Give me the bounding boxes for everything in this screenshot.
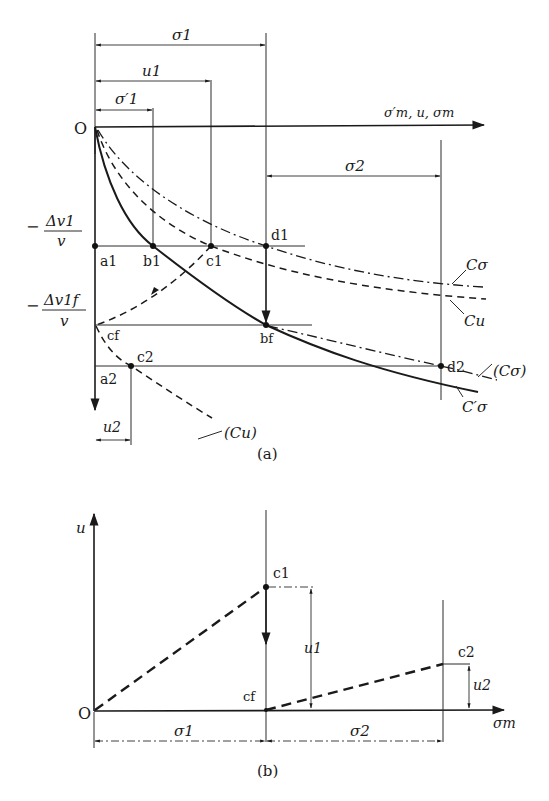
point-c1	[208, 243, 214, 249]
c-u-leader	[450, 300, 464, 314]
c-sigma-paren-leader	[478, 364, 492, 377]
sigma2-label-b: σ2	[350, 722, 370, 740]
dv1-denominator: v	[57, 232, 66, 250]
point-a1	[92, 243, 98, 249]
label-cf-b: cf	[243, 689, 256, 704]
label-bf: bf	[260, 331, 274, 346]
point-c1-b	[263, 584, 269, 590]
sigma1-prime-label: σ′1	[115, 90, 138, 108]
c-sigma-prime-label: C′σ	[462, 398, 488, 416]
label-cf: cf	[107, 328, 120, 343]
c-sigma-leader	[452, 270, 466, 284]
point-c2	[128, 363, 134, 369]
sigma2-label: σ2	[345, 157, 365, 175]
loading-line-o-c1	[95, 587, 266, 710]
label-b1: b1	[143, 253, 161, 269]
dv1-minus: −	[26, 217, 39, 236]
figure-b-caption: (b)	[257, 762, 278, 780]
c-sigma-label: Cσ	[466, 256, 488, 274]
sigma1-label-b: σ1	[174, 722, 194, 740]
label-c1-b: c1	[273, 565, 290, 581]
x-axis-label: σ′m, u, σm	[384, 105, 454, 120]
label-c2-b: c2	[458, 644, 475, 660]
point-cf-b	[264, 708, 268, 712]
label-a2: a2	[100, 371, 117, 387]
c-u-label: Cu	[464, 312, 485, 330]
u1-label-b: u1	[304, 640, 322, 656]
c-u-paren-leader	[198, 431, 222, 439]
point-d1	[263, 243, 269, 249]
sigma1-label: σ1	[172, 26, 192, 44]
sigma-m-axis-label: σm	[493, 715, 516, 731]
consolidation-diagram: σ1 u1 σ′1 σ2 O σ′m, u, σm u2	[0, 0, 549, 801]
c-sigma-paren-label: (Cσ)	[493, 362, 527, 380]
label-d1: d1	[271, 227, 289, 243]
origin-b-label: O	[78, 704, 91, 723]
label-a1: a1	[100, 253, 117, 269]
u1-label: u1	[142, 62, 161, 80]
dv1f-denominator: v	[60, 312, 69, 330]
u2-label-b: u2	[473, 677, 491, 693]
label-c1: c1	[206, 253, 223, 269]
curve-c-u	[97, 130, 486, 299]
point-b1	[150, 243, 156, 249]
dv1f-numerator: Δv1f	[43, 291, 81, 309]
figure-a-caption: (a)	[257, 445, 278, 463]
point-d2	[438, 363, 444, 369]
point-bf	[263, 322, 269, 328]
unloading-arrow-icon	[151, 287, 159, 295]
u2-label: u2	[103, 419, 121, 435]
figure-b: u σm O u1 u2 c1 cf c2 σ1 σ2 (b)	[76, 510, 516, 780]
label-c2: c2	[137, 349, 154, 365]
figure-a: σ1 u1 σ′1 σ2 O σ′m, u, σm u2	[26, 26, 527, 463]
u-axis-label: u	[76, 519, 86, 537]
label-d2: d2	[447, 359, 465, 375]
origin-label: O	[74, 119, 87, 138]
dv1-numerator: Δv1	[45, 212, 75, 230]
loading-line-cf-c2	[266, 664, 443, 710]
dv1f-minus: −	[26, 296, 39, 315]
c-u-paren-label: (Cu)	[224, 424, 257, 442]
